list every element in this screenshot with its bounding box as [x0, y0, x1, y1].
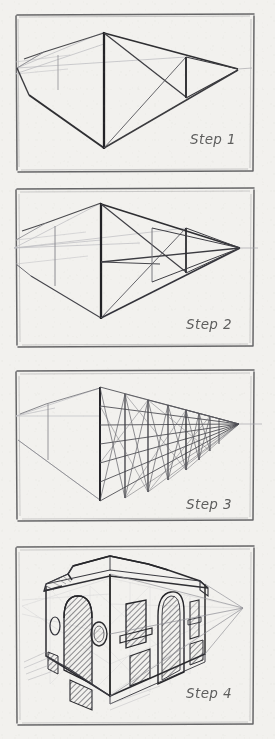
- step-label-1: Step 1: [190, 131, 236, 147]
- panel-1-border: [16, 14, 254, 172]
- panel-3-perspective-grid: [100, 387, 262, 501]
- step-label-2: Step 2: [186, 316, 232, 332]
- panel-3-left-construction: [16, 388, 100, 500]
- panel-step-1: Step 1: [0, 0, 275, 190]
- drawing-sheet: Step 1: [0, 0, 275, 739]
- panel-4-roof: [44, 556, 208, 596]
- panel-2-sketch: [16, 203, 258, 319]
- step-label-3: Step 3: [186, 496, 232, 512]
- panel-step-4: Step 4: [0, 544, 275, 739]
- panel-step-2: Step 2: [0, 186, 275, 354]
- panel-step-3: Step 3: [0, 368, 275, 528]
- step-label-4: Step 4: [186, 685, 232, 701]
